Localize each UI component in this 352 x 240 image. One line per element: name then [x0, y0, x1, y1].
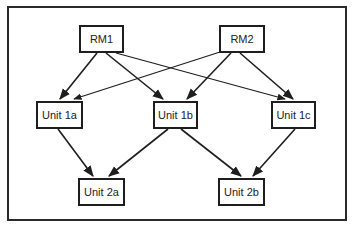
edge-u1b-u2a [109, 129, 168, 176]
edge-u1a-u2a [58, 129, 93, 176]
node-label: Unit 1a [42, 109, 77, 121]
edge-rm1-u1b [106, 53, 163, 99]
node-label: Unit 2b [224, 186, 259, 198]
edge-u1b-u2b [181, 129, 241, 176]
node-unit-1b: Unit 1b [153, 101, 198, 129]
node-label: Unit 1c [276, 109, 310, 121]
edge-rm1-u1a [60, 53, 97, 99]
edge-rm1-u1c [116, 53, 285, 99]
node-unit-2a: Unit 2a [78, 178, 125, 206]
node-label: RM1 [90, 33, 113, 45]
node-unit-1a: Unit 1a [36, 101, 83, 129]
node-label: Unit 2a [84, 186, 119, 198]
node-label: RM2 [230, 33, 253, 45]
node-unit-1c: Unit 1c [271, 101, 316, 129]
edge-rm2-u1c [240, 53, 293, 99]
node-label: Unit 1b [158, 109, 193, 121]
edge-u1c-u2b [253, 129, 295, 176]
node-rm2: RM2 [219, 25, 265, 53]
node-unit-2b: Unit 2b [218, 178, 265, 206]
node-rm1: RM1 [79, 25, 124, 53]
